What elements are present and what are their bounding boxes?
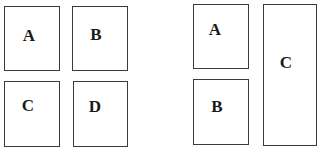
- panel-label: A: [209, 21, 221, 38]
- panel-label: D: [89, 98, 101, 115]
- panel-label: A: [23, 27, 35, 44]
- panel-label: C: [22, 97, 34, 114]
- panel-label: B: [90, 26, 101, 43]
- panel-label: B: [211, 98, 222, 115]
- panel-label: C: [280, 54, 292, 71]
- panel-c-right: [263, 4, 317, 146]
